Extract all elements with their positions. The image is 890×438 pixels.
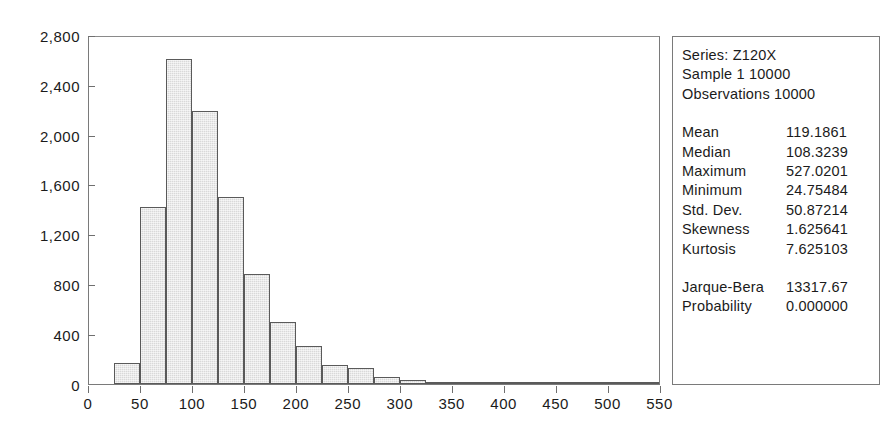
x-axis-tick-mark xyxy=(348,386,349,393)
x-axis-tick-label: 150 xyxy=(231,395,258,412)
x-axis-tick-mark xyxy=(452,386,453,393)
x-axis-tick-mark xyxy=(88,386,89,393)
y-axis-tick-mark xyxy=(88,136,95,137)
x-axis-tick-label: 100 xyxy=(179,395,206,412)
x-axis-tick-mark xyxy=(660,386,661,393)
x-axis-tick-mark xyxy=(296,386,297,393)
x-axis-tick-label: 350 xyxy=(438,395,465,412)
stat-key: Skewness xyxy=(682,220,786,239)
x-axis-tick-label: 0 xyxy=(84,395,93,412)
stat-row: Kurtosis7.625103 xyxy=(682,240,879,259)
stat-key: Mean xyxy=(682,123,786,142)
sample-label: Sample 1 10000 xyxy=(682,65,879,84)
stat-row: Mean119.1861 xyxy=(682,123,879,142)
x-axis-tick-mark xyxy=(556,386,557,393)
y-axis-tick-mark xyxy=(88,335,95,336)
stat-key: Kurtosis xyxy=(682,240,786,259)
stat-value: 108.3239 xyxy=(786,143,848,162)
y-axis-tick-mark xyxy=(88,185,95,186)
stats-spacer-1 xyxy=(682,104,879,123)
x-axis-tick-label: 250 xyxy=(335,395,362,412)
x-axis-tick-label: 500 xyxy=(594,395,621,412)
y-axis-tick-mark xyxy=(88,235,95,236)
stat-key: Std. Dev. xyxy=(682,201,786,220)
observations-label: Observations 10000 xyxy=(682,85,879,104)
stat-row: Std. Dev.50.87214 xyxy=(682,201,879,220)
stat-value: 24.75484 xyxy=(786,181,848,200)
x-axis-tick-mark xyxy=(608,386,609,393)
x-axis-tick-label: 50 xyxy=(131,395,149,412)
stat-value: 0.000000 xyxy=(786,297,848,316)
stat-row: Median108.3239 xyxy=(682,143,879,162)
stat-row: Skewness1.625641 xyxy=(682,220,879,239)
x-axis-tick-label: 550 xyxy=(646,395,673,412)
x-axis-tick-mark xyxy=(244,386,245,393)
x-axis-tick-label: 300 xyxy=(386,395,413,412)
stat-key: Minimum xyxy=(682,181,786,200)
x-axis-tick-mark xyxy=(400,386,401,393)
stat-key: Probability xyxy=(682,297,786,316)
stat-key: Maximum xyxy=(682,162,786,181)
x-axis-tick-label: 400 xyxy=(490,395,517,412)
y-axis-tick-mark xyxy=(88,285,95,286)
stats-rows: Mean119.1861Median108.3239Maximum527.020… xyxy=(682,123,879,259)
y-axis-tick-mark xyxy=(88,86,95,87)
stat-row: Jarque-Bera13317.67 xyxy=(682,278,879,297)
stat-row: Minimum24.75484 xyxy=(682,181,879,200)
x-axis-tick-label: 450 xyxy=(542,395,569,412)
x-axis-tick-mark xyxy=(140,386,141,393)
stat-row: Maximum527.0201 xyxy=(682,162,879,181)
stat-value: 13317.67 xyxy=(786,278,848,297)
stat-value: 119.1861 xyxy=(786,123,847,142)
x-axis-tick-mark xyxy=(192,386,193,393)
stats-spacer-2 xyxy=(682,259,879,278)
stat-key: Jarque-Bera xyxy=(682,278,786,297)
stat-key: Median xyxy=(682,143,786,162)
stat-row: Probability0.000000 xyxy=(682,297,879,316)
stat-value: 7.625103 xyxy=(786,240,848,259)
stat-value: 50.87214 xyxy=(786,201,848,220)
stats-test-rows: Jarque-Bera13317.67Probability0.000000 xyxy=(682,278,879,317)
x-axis-tick-mark xyxy=(504,386,505,393)
stat-value: 527.0201 xyxy=(786,162,848,181)
stat-value: 1.625641 xyxy=(786,220,848,239)
x-axis-tick-label: 200 xyxy=(283,395,310,412)
y-axis-tick-mark xyxy=(88,36,95,37)
series-label: Series: Z120X xyxy=(682,46,879,65)
statistics-panel: Series: Z120X Sample 1 10000 Observation… xyxy=(672,36,880,385)
